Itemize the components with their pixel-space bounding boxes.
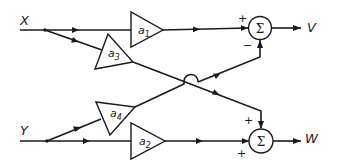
- block-diagram: X a1 Σ + − V a3 Y: [0, 0, 339, 166]
- output-label-w: W: [305, 131, 319, 146]
- wire-y-to-a2: [20, 138, 131, 144]
- wire-sum2-to-w: [273, 138, 301, 144]
- wire-y-to-a4: [47, 119, 101, 141]
- sum1-minus-sign: −: [243, 39, 252, 52]
- wire-x-to-a1: [20, 27, 131, 33]
- output-label-v: V: [307, 20, 317, 35]
- amplifier-a3: a3: [95, 34, 133, 69]
- sum1-plus-sign: +: [238, 12, 247, 25]
- sigma-icon: Σ: [256, 22, 264, 36]
- summing-junction-1: Σ: [249, 17, 272, 40]
- wire-x-to-a3: [45, 30, 102, 50]
- amplifier-a1: a1: [131, 12, 163, 47]
- sum2-left-plus-sign: +: [237, 147, 246, 160]
- wire-sum1-to-v: [272, 25, 302, 31]
- wire-a1-to-sum1: [163, 25, 248, 32]
- sigma-icon: Σ: [257, 135, 265, 149]
- input-label-x: X: [19, 13, 30, 28]
- input-label-y: Y: [20, 123, 29, 138]
- crossover-hop: [184, 74, 198, 82]
- sum2-top-plus-sign: +: [244, 114, 253, 127]
- wire-a2-to-sum2: [165, 138, 249, 144]
- amplifier-a2: a2: [131, 123, 165, 159]
- summing-junction-2: Σ: [249, 129, 273, 153]
- amplifier-a4: a4: [96, 102, 135, 135]
